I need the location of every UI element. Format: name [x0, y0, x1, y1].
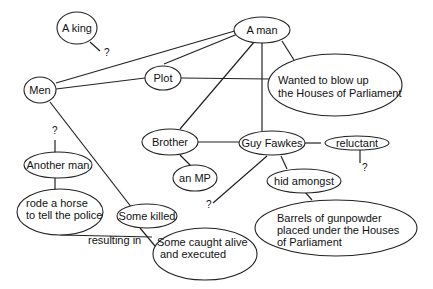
node-an-mp: an MP [173, 165, 217, 191]
node-a-king: A king [57, 12, 97, 44]
node-rode-horse: rode a horse to tell the police [17, 189, 103, 235]
svg-text:A king: A king [62, 22, 92, 34]
node-some-killed: Some killed [117, 204, 177, 228]
node-guy-fawkes: Guy Fawkes [239, 131, 305, 155]
node-barrels: Barrels of gunpowder placed under the Ho… [255, 200, 417, 256]
question-mark-reluctant: ? [362, 162, 368, 173]
svg-text:Men: Men [29, 84, 50, 96]
edge-plot-wanted [181, 78, 270, 79]
question-mark-king: ? [104, 47, 110, 58]
node-a-man: A man [234, 17, 290, 43]
node-some-caught: Some caught alive and executed [153, 228, 257, 280]
svg-text:an MP: an MP [179, 172, 211, 184]
svg-text:of Parliament: of Parliament [277, 236, 342, 248]
svg-text:Another man: Another man [27, 159, 90, 171]
node-reluctant: reluctant [325, 136, 389, 150]
node-hid-amongst: hid amongst [267, 169, 341, 193]
question-mark-fawkes: ? [206, 199, 212, 210]
edge-fawkes-q [213, 156, 267, 203]
node-brother: Brother [142, 129, 198, 155]
svg-text:to tell the police: to tell the police [26, 209, 102, 221]
svg-text:Guy Fawkes: Guy Fawkes [241, 137, 303, 149]
node-another-man: Another man [24, 152, 92, 178]
edge-label-resulting-in: resulting in [88, 234, 141, 246]
edge-fawkes-hid [281, 156, 287, 169]
svg-text:Some killed: Some killed [119, 210, 176, 222]
svg-text:Wanted to blow up: Wanted to blow up [278, 74, 369, 86]
question-mark-men: ? [52, 125, 58, 136]
svg-text:placed under the Houses: placed under the Houses [277, 224, 400, 236]
node-men: Men [24, 77, 56, 103]
svg-text:Some caught alive: Some caught alive [157, 236, 248, 248]
svg-text:rode a horse: rode a horse [26, 197, 88, 209]
svg-text:hid amongst: hid amongst [274, 175, 334, 187]
svg-text:the Houses of Parliament: the Houses of Parliament [278, 87, 402, 99]
svg-text:reluctant: reluctant [336, 137, 378, 149]
edge-aman-brother [180, 41, 255, 129]
node-wanted: Wanted to blow up the Houses of Parliame… [268, 54, 402, 116]
svg-text:Brother: Brother [152, 136, 188, 148]
edge-aman-wanted [282, 41, 294, 60]
svg-text:Barrels of gunpowder: Barrels of gunpowder [277, 212, 382, 224]
svg-text:and executed: and executed [160, 248, 226, 260]
concept-map: A king ? A man Men Plot Wanted to blow u… [0, 0, 433, 289]
edge-king-q [90, 42, 100, 51]
node-plot: Plot [145, 66, 181, 90]
svg-text:Plot: Plot [154, 72, 173, 84]
svg-text:A man: A man [246, 24, 277, 36]
